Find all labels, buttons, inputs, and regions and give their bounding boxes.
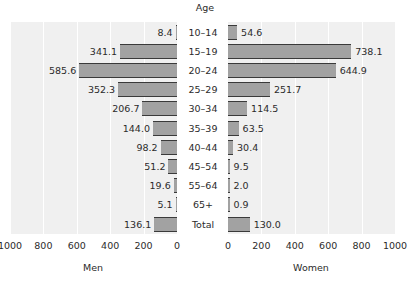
x-tick-women: 1000: [373, 240, 412, 251]
category-label: 45–54: [181, 161, 225, 172]
category-label: 35–39: [181, 123, 225, 134]
bar-women: [228, 159, 230, 174]
gridline: [10, 22, 11, 234]
value-label-women: 0.9: [234, 199, 249, 210]
category-label: 55–64: [181, 180, 225, 191]
value-label-men: 8.4: [157, 27, 172, 38]
bar-women: [228, 63, 336, 78]
age-column-header: Age: [185, 2, 225, 13]
bar-men: [168, 159, 177, 174]
bar-men: [120, 44, 177, 59]
bar-men: [142, 101, 177, 116]
category-label: 65+: [181, 199, 225, 210]
bar-men: [176, 197, 178, 212]
category-label: 25–29: [181, 84, 225, 95]
category-label: 30–34: [181, 103, 225, 114]
value-label-men: 352.3: [88, 84, 115, 95]
value-label-women: 738.1: [355, 46, 382, 57]
value-label-women: 30.4: [237, 142, 258, 153]
bar-men: [174, 178, 177, 193]
value-label-women: 54.6: [241, 27, 262, 38]
value-label-men: 341.1: [90, 46, 117, 57]
value-label-women: 251.7: [274, 84, 301, 95]
category-label: Total: [181, 219, 225, 230]
bar-women: [228, 25, 237, 40]
bar-men: [154, 217, 177, 232]
value-label-men: 144.0: [123, 123, 150, 134]
value-label-women: 130.0: [254, 219, 281, 230]
bar-men: [79, 63, 177, 78]
category-label: 40–44: [181, 142, 225, 153]
gridline: [43, 22, 44, 234]
category-label: 10–14: [181, 27, 225, 38]
value-label-men: 136.1: [124, 219, 151, 230]
value-label-women: 114.5: [251, 103, 278, 114]
value-label-men: 206.7: [112, 103, 139, 114]
bar-women: [228, 82, 270, 97]
value-label-women: 63.5: [243, 123, 264, 134]
value-label-women: 2.0: [234, 180, 249, 191]
value-label-women: 9.5: [234, 161, 249, 172]
bar-men: [153, 121, 177, 136]
bar-women: [228, 140, 233, 155]
value-label-men: 5.1: [157, 199, 172, 210]
gridline: [77, 22, 78, 234]
bar-women: [228, 121, 239, 136]
bar-women: [228, 197, 230, 212]
bar-women: [228, 217, 250, 232]
category-label: 15–19: [181, 46, 225, 57]
category-label: 20–24: [181, 65, 225, 76]
bar-women: [228, 101, 247, 116]
x-axis-title-women: Women: [266, 262, 356, 273]
x-axis-title-men: Men: [48, 262, 138, 273]
bar-men: [118, 82, 177, 97]
value-label-men: 19.6: [150, 180, 171, 191]
gridline: [395, 22, 396, 234]
bar-women: [228, 178, 230, 193]
value-label-men: 51.2: [144, 161, 165, 172]
x-tick-men: 0: [155, 240, 199, 251]
value-label-men: 98.2: [136, 142, 157, 153]
bar-men: [176, 25, 178, 40]
value-label-women: 644.9: [340, 65, 367, 76]
value-label-men: 585.6: [49, 65, 76, 76]
bar-men: [161, 140, 177, 155]
bar-women: [228, 44, 351, 59]
